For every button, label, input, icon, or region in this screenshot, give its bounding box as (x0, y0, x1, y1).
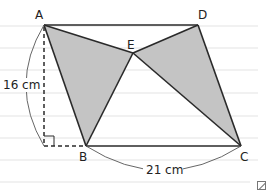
expand-icon[interactable] (257, 181, 266, 190)
shaded-triangle-DEC (133, 25, 241, 146)
shaded-triangle-AEB (44, 25, 133, 146)
label-point-c: C (240, 151, 248, 163)
label-point-b: B (79, 151, 87, 163)
label-point-e: E (127, 39, 135, 51)
geometry-figure: A D E B C 16 cm 21 cm (0, 0, 268, 191)
figure-canvas (0, 0, 268, 191)
label-point-d: D (198, 9, 207, 21)
label-point-a: A (35, 9, 43, 21)
base-measurement: 21 cm (146, 164, 183, 176)
height-measurement: 16 cm (3, 79, 40, 91)
